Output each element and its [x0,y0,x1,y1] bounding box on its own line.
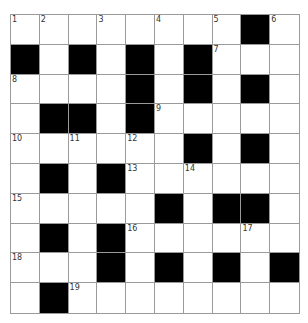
answer-cell[interactable]: 9 [155,104,184,134]
answer-cell[interactable] [184,194,213,224]
block-cell [97,224,126,254]
answer-cell[interactable] [241,104,270,134]
answer-cell[interactable] [97,283,126,313]
answer-cell[interactable] [126,283,155,313]
answer-cell[interactable] [155,164,184,194]
answer-cell[interactable] [97,194,126,224]
answer-cell[interactable]: 11 [69,134,98,164]
answer-cell[interactable] [126,194,155,224]
answer-cell[interactable] [270,104,299,134]
cell-letter [97,53,125,74]
answer-cell[interactable] [184,283,213,313]
answer-cell[interactable] [97,75,126,105]
answer-cell[interactable] [270,283,299,313]
cell-letter [69,202,97,223]
answer-cell[interactable] [40,194,69,224]
answer-cell[interactable] [69,75,98,105]
cell-letter [40,202,68,223]
block-cell [241,15,270,45]
answer-cell[interactable] [40,45,69,75]
answer-cell[interactable] [69,194,98,224]
answer-cell[interactable] [213,283,242,313]
cell-letter [126,172,154,193]
cell-letter [184,261,212,282]
answer-cell[interactable] [97,45,126,75]
cell-letter [241,261,269,282]
answer-cell[interactable]: 16 [126,224,155,254]
answer-cell[interactable]: 18 [11,253,40,283]
answer-cell[interactable] [69,224,98,254]
answer-cell[interactable]: 8 [11,75,40,105]
answer-cell[interactable]: 10 [11,134,40,164]
answer-cell[interactable] [155,45,184,75]
block-cell [40,224,69,254]
cell-letter [184,112,212,133]
answer-cell[interactable]: 13 [126,164,155,194]
answer-cell[interactable] [155,283,184,313]
cell-letter [213,83,241,104]
answer-cell[interactable] [11,104,40,134]
cell-letter [40,23,68,44]
answer-cell[interactable] [69,164,98,194]
cell-letter [184,232,212,253]
answer-cell[interactable]: 4 [155,15,184,45]
answer-cell[interactable] [155,75,184,105]
answer-cell[interactable] [213,164,242,194]
answer-cell[interactable] [11,164,40,194]
answer-cell[interactable] [69,253,98,283]
block-cell [184,134,213,164]
answer-cell[interactable] [241,45,270,75]
answer-cell[interactable] [213,134,242,164]
answer-cell[interactable] [270,224,299,254]
answer-cell[interactable] [213,104,242,134]
answer-cell[interactable] [241,283,270,313]
answer-cell[interactable] [270,75,299,105]
answer-cell[interactable] [184,253,213,283]
answer-cell[interactable] [97,104,126,134]
block-cell [97,164,126,194]
answer-cell[interactable] [69,15,98,45]
answer-cell[interactable] [184,15,213,45]
answer-cell[interactable] [40,253,69,283]
answer-cell[interactable] [40,75,69,105]
cell-letter [241,291,269,313]
answer-cell[interactable] [270,45,299,75]
cell-letter [69,23,97,44]
cell-letter [40,261,68,282]
cell-letter [213,112,241,133]
answer-cell[interactable]: 14 [184,164,213,194]
cell-letter [270,172,299,193]
answer-cell[interactable]: 2 [40,15,69,45]
answer-cell[interactable] [126,253,155,283]
answer-cell[interactable]: 3 [97,15,126,45]
cell-letter [69,291,97,313]
block-cell [184,45,213,75]
answer-cell[interactable] [213,224,242,254]
answer-cell[interactable] [270,134,299,164]
answer-cell[interactable] [184,104,213,134]
answer-cell[interactable]: 1 [11,15,40,45]
cell-letter [213,291,241,313]
answer-cell[interactable]: 17 [241,224,270,254]
answer-cell[interactable]: 7 [213,45,242,75]
answer-cell[interactable]: 15 [11,194,40,224]
answer-cell[interactable] [155,134,184,164]
answer-cell[interactable] [97,134,126,164]
cell-letter [241,53,269,74]
answer-cell[interactable] [11,283,40,313]
block-cell [270,253,299,283]
answer-cell[interactable] [241,164,270,194]
answer-cell[interactable]: 5 [213,15,242,45]
answer-cell[interactable] [241,253,270,283]
answer-cell[interactable] [270,194,299,224]
answer-cell[interactable] [155,224,184,254]
answer-cell[interactable]: 6 [270,15,299,45]
answer-cell[interactable]: 12 [126,134,155,164]
answer-cell[interactable] [184,224,213,254]
answer-cell[interactable] [126,15,155,45]
answer-cell[interactable] [270,164,299,194]
answer-cell[interactable] [11,224,40,254]
answer-cell[interactable] [213,75,242,105]
answer-cell[interactable] [40,134,69,164]
answer-cell[interactable]: 19 [69,283,98,313]
